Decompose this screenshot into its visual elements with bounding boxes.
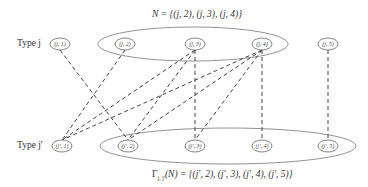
node-j3: (j, 3) — [185, 38, 205, 50]
svg-text:(j, 5): (j, 5) — [322, 41, 334, 48]
svg-text:(j, 1): (j, 1) — [54, 41, 66, 48]
gamma-subscript: j, j' — [158, 175, 165, 181]
svg-text:(j, 2): (j, 2) — [119, 41, 131, 48]
bottom-set-label: Γj, j'(N) = {(j', 2), (j', 3), (j', 4), … — [152, 169, 293, 181]
node-jp2: (j', 2) — [118, 140, 138, 152]
edge-j1-jp2 — [60, 50, 128, 140]
svg-text:(j, 3): (j, 3) — [189, 41, 201, 48]
svg-text:(j, 4): (j, 4) — [256, 41, 268, 48]
node-jp4: (j', 4) — [252, 140, 272, 152]
row-label-type-j: Type j — [17, 38, 41, 48]
edge-j3-jp1 — [62, 50, 195, 140]
svg-text:(j', 2): (j', 2) — [122, 143, 135, 150]
node-jp3: (j', 3) — [185, 140, 205, 152]
gamma-rest: (N) = {(j', 2), (j', 3), (j', 4), (j', 5… — [165, 169, 293, 179]
node-j1: (j, 1) — [50, 38, 70, 50]
edge-j4-jp1 — [62, 50, 262, 140]
edge-j4-jp3 — [195, 50, 262, 140]
graph-canvas: (j, 1)(j, 2)(j, 3)(j, 4)(j, 5)(j', 1)(j'… — [0, 0, 368, 187]
node-j5: (j, 5) — [318, 38, 338, 50]
node-jp1: (j', 1) — [52, 140, 72, 152]
edges — [60, 50, 328, 140]
edge-j3-jp2 — [128, 50, 195, 140]
node-j2: (j, 2) — [115, 38, 135, 50]
top-set-label: N = {(j, 2), (j, 3), (j, 4)} — [152, 9, 242, 19]
svg-text:(j', 1): (j', 1) — [56, 143, 69, 150]
row-label-type-j-prime: Type j' — [17, 140, 43, 150]
nodes: (j, 1)(j, 2)(j, 3)(j, 4)(j, 5)(j', 1)(j'… — [50, 38, 338, 152]
node-j4: (j, 4) — [252, 38, 272, 50]
svg-text:(j', 3): (j', 3) — [189, 143, 202, 150]
svg-text:(j', 5): (j', 5) — [322, 143, 335, 150]
svg-text:(j', 4): (j', 4) — [256, 143, 269, 150]
node-jp5: (j', 5) — [318, 140, 338, 152]
